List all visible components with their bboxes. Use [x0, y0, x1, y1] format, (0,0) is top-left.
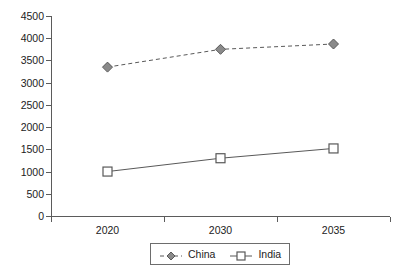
legend-label: China — [188, 248, 215, 260]
legend-entry-china[interactable]: China — [159, 248, 215, 260]
diamond-marker-icon — [159, 248, 183, 260]
line-chart: 050010001500200025003000350040004500 202… — [0, 0, 418, 279]
data-point-marker-square — [216, 154, 225, 163]
legend-entry-india[interactable]: India — [229, 248, 281, 260]
data-point-marker-diamond — [329, 39, 339, 49]
plot-area — [0, 0, 418, 279]
data-point-marker-diamond — [103, 62, 113, 72]
legend-label: India — [258, 248, 281, 260]
data-point-marker-square — [329, 144, 338, 153]
square-marker-icon — [229, 248, 253, 260]
data-point-marker-diamond — [216, 44, 226, 54]
data-point-marker-square — [103, 167, 112, 176]
chart-legend: ChinaIndia — [150, 243, 290, 265]
